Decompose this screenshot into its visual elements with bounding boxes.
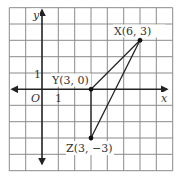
y-tick-label: 1 (34, 68, 41, 81)
x-axis-label: x (161, 92, 168, 105)
point-x-label: X(6, 3) (114, 25, 151, 38)
x-tick-label: 1 (55, 92, 62, 105)
point-x (138, 38, 143, 43)
point-z-label: Z(3, −3) (66, 142, 112, 155)
labels: y x O 1 1 X(6, 3) Y(3, 0) Z(3, −3) (31, 9, 168, 156)
point-y (89, 87, 94, 92)
point-y-label: Y(3, 0) (51, 74, 89, 87)
y-axis-label: y (32, 9, 40, 22)
coordinate-plane: y x O 1 1 X(6, 3) Y(3, 0) Z(3, −3) (0, 0, 176, 176)
segment-xy (91, 40, 140, 89)
point-z (89, 136, 94, 141)
origin-label: O (31, 92, 40, 105)
